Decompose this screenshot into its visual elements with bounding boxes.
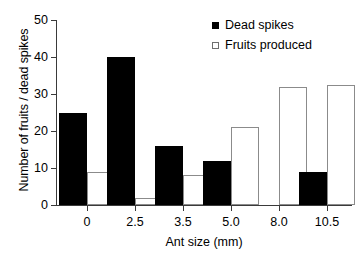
bar-dead-spikes-0 (59, 113, 87, 206)
legend-label: Fruits produced (225, 37, 312, 53)
bar-dead-spikes-2-5 (107, 57, 135, 205)
x-axis-tick (87, 206, 88, 211)
x-axis-line (56, 205, 352, 206)
bar-fruits-produced-10-5 (327, 85, 355, 205)
y-axis-tick: 0 (51, 205, 56, 206)
bar-chart-figure: Number of fruits / dead spikes 0 10 20 3… (0, 0, 362, 265)
x-axis-tick-label: 3.5 (158, 214, 208, 230)
y-axis-tick-label: 50 (34, 12, 48, 28)
x-axis-tick (135, 206, 136, 211)
y-axis-title: Number of fruits / dead spikes (16, 5, 32, 215)
legend-swatch-filled-square-icon (212, 22, 219, 29)
bar-dead-spikes-3-5 (155, 146, 183, 205)
y-axis-tick-label: 30 (34, 86, 48, 102)
x-axis-tick-label: 0 (62, 214, 112, 230)
legend-label: Dead spikes (225, 17, 294, 33)
legend-item-fruits-produced: Fruits produced (212, 36, 352, 54)
bar-fruits-produced-5-0 (231, 127, 259, 205)
x-axis-tick-label: 10.5 (302, 214, 352, 230)
x-axis-tick (279, 206, 280, 211)
x-axis-tick (231, 206, 232, 211)
x-axis-tick-label: 8.0 (254, 214, 304, 230)
chart-legend: Dead spikes Fruits produced (212, 16, 352, 56)
bar-dead-spikes-5-0 (203, 161, 231, 205)
legend-swatch-open-square-icon (212, 42, 219, 49)
x-axis-tick (327, 206, 328, 211)
x-axis-tick-label: 5.0 (206, 214, 256, 230)
legend-item-dead-spikes: Dead spikes (212, 16, 352, 34)
x-axis-tick-label: 2.5 (110, 214, 160, 230)
x-axis-tick (183, 206, 184, 211)
y-axis-tick-label: 40 (34, 49, 48, 65)
y-axis-tick-label: 0 (41, 197, 48, 213)
y-axis-tick-label: 10 (34, 160, 48, 176)
x-axis-title: Ant size (mm) (56, 234, 352, 250)
y-axis-tick-label: 20 (34, 123, 48, 139)
bar-dead-spikes-10-5 (299, 172, 327, 205)
